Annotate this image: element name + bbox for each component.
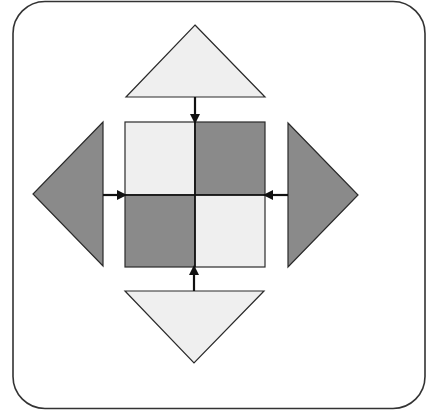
- central-square: [125, 122, 265, 267]
- diagram-svg: [0, 0, 427, 413]
- cell-top-right: [195, 122, 265, 195]
- diagram-canvas: [0, 0, 427, 413]
- cell-bottom-left: [125, 195, 195, 267]
- cell-bottom-right: [195, 195, 265, 267]
- cell-top-left: [125, 122, 195, 195]
